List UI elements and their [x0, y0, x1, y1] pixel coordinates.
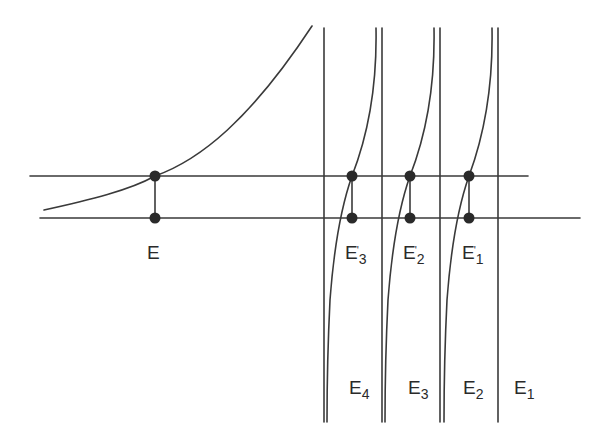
label-base: E	[345, 242, 358, 263]
label-sub: 1	[527, 386, 535, 402]
label-sub: 3	[359, 251, 367, 267]
point-E2p-upper	[405, 171, 416, 182]
label-sub: 3	[421, 386, 429, 402]
label-E1-prime: E'1	[462, 243, 484, 266]
point-E1p-upper	[464, 171, 475, 182]
label-E2-prime: E'2	[403, 243, 425, 266]
point-E-lower	[150, 213, 161, 224]
label-E3: E3	[408, 378, 428, 401]
label-sub: 2	[476, 386, 484, 402]
label-E-text: E	[147, 242, 160, 263]
branch-curve-3	[444, 28, 492, 422]
label-base: E	[462, 242, 475, 263]
label-E2: E2	[463, 378, 483, 401]
point-E3p-lower	[347, 213, 358, 224]
point-E3p-upper	[347, 171, 358, 182]
label-E3-prime: E'3	[345, 243, 367, 266]
label-base: E	[463, 377, 476, 398]
label-base: E	[408, 377, 421, 398]
branch-curve-2	[385, 28, 434, 422]
label-sub: 2	[417, 251, 425, 267]
label-E1: E1	[514, 378, 534, 401]
label-sub: 1	[476, 251, 484, 267]
label-base: E	[349, 377, 362, 398]
label-base: E	[403, 242, 416, 263]
point-E1p-lower	[464, 213, 475, 224]
branch-curve-1	[327, 28, 376, 422]
point-E2p-lower	[405, 213, 416, 224]
label-base: E	[514, 377, 527, 398]
label-E4: E4	[349, 378, 369, 401]
point-E-upper	[150, 171, 161, 182]
rising-curve	[44, 26, 312, 210]
label-E: E	[147, 243, 160, 262]
label-sub: 4	[362, 386, 370, 402]
